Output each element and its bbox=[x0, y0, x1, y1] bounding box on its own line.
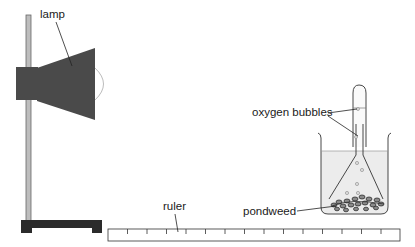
label-oxygen-bubbles: oxygen bubbles bbox=[252, 106, 333, 118]
label-ruler: ruler bbox=[163, 200, 186, 212]
label-lamp: lamp bbox=[40, 8, 65, 20]
lamp-clamp bbox=[16, 67, 38, 100]
ruler bbox=[108, 229, 400, 241]
stand-base bbox=[21, 220, 102, 233]
stand-rod bbox=[26, 15, 31, 225]
diagram-canvas: lamp ruler bbox=[0, 0, 415, 247]
lamp-bulb bbox=[95, 68, 104, 100]
label-pondweed: pondweed bbox=[243, 205, 296, 217]
lamp-shade bbox=[37, 48, 95, 120]
